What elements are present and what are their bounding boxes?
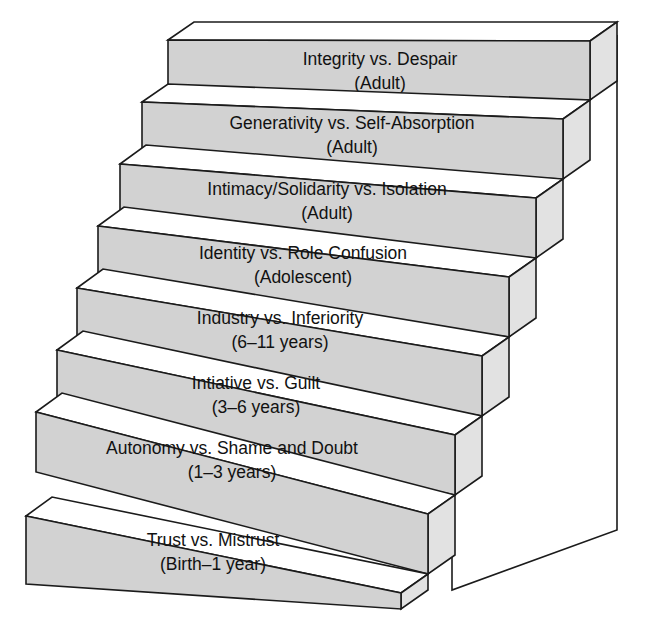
step-5-age-label: (Adolescent): [254, 267, 352, 287]
figure-canvas: Integrity vs. Despair (Adult) Generativi…: [0, 0, 646, 641]
step-1-age-label: (Birth–1 year): [160, 554, 266, 574]
step-3-stage-label: Intiative vs. Guilt: [192, 373, 321, 393]
step-6-stage-label: Intimacy/Solidarity vs. Isolation: [207, 179, 446, 199]
step-4-age-label: (6–11 years): [232, 332, 329, 352]
staircase-diagram: Integrity vs. Despair (Adult) Generativi…: [0, 0, 646, 641]
step-7-age-label: (Adult): [326, 137, 378, 157]
step-2-stage-label: Autonomy vs. Shame and Doubt: [106, 438, 358, 458]
step-2-age-label: (1–3 years): [188, 462, 277, 482]
step-4-stage-label: Industry vs. Inferiority: [197, 308, 364, 328]
step-8-top-face: [168, 22, 617, 41]
step-8-age-label: (Adult): [354, 73, 406, 93]
step-7-stage-label: Generativity vs. Self-Absorption: [229, 113, 474, 133]
step-6-age-label: (Adult): [301, 203, 353, 223]
step-3-age-label: (3–6 years): [212, 397, 301, 417]
step-5-stage-label: Identity vs. Role Confusion: [199, 243, 407, 263]
step-1-stage-label: Trust vs. Mistrust: [147, 530, 280, 550]
step-8-stage-label: Integrity vs. Despair: [303, 49, 458, 69]
